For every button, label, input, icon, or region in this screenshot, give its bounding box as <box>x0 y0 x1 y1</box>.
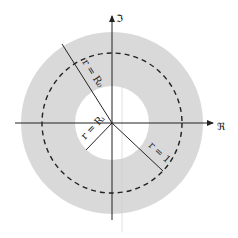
annulus-diagram: ℜ ℑ r = R₀ r = Rᵢ r = 1 <box>0 0 238 238</box>
real-axis-label: ℜ <box>217 121 226 132</box>
imag-axis-label: ℑ <box>116 13 123 24</box>
